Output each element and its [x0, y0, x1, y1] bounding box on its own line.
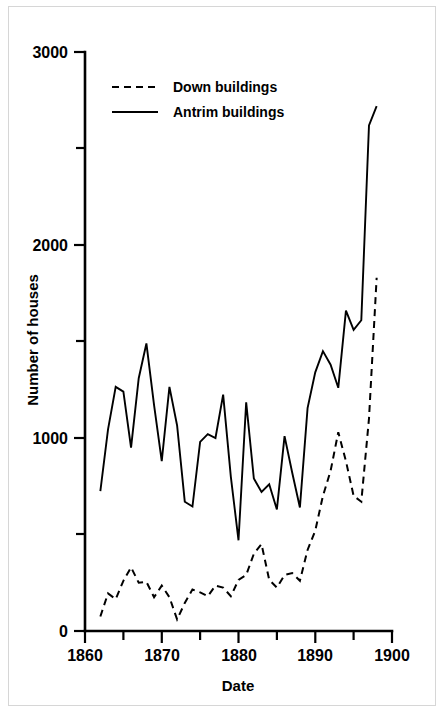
figure-container: 3000 2000 1000 0 1860 1870 1880 1890 190…: [0, 0, 444, 715]
y-tick-label-0: 0: [59, 623, 68, 640]
x-tick-label-1900: 1900: [374, 647, 410, 664]
x-tick-label-1880: 1880: [221, 647, 257, 664]
data-series-group: [100, 106, 376, 619]
y-tick-label-2000: 2000: [32, 237, 68, 254]
x-tick-labels: 1860 1870 1880 1890 1900: [67, 647, 410, 664]
legend: Down buildings Antrim buildings: [112, 79, 284, 120]
y-tick-marks: [74, 52, 85, 631]
axes-group: [85, 52, 392, 631]
x-tick-label-1890: 1890: [297, 647, 333, 664]
series-antrim-buildings: [100, 106, 376, 540]
x-tick-marks: [85, 631, 392, 643]
y-tick-label-3000: 3000: [32, 44, 68, 61]
x-tick-label-1870: 1870: [144, 647, 180, 664]
y-tick-label-1000: 1000: [32, 430, 68, 447]
series-down-buildings: [100, 278, 376, 620]
legend-label-down-buildings: Down buildings: [173, 79, 277, 95]
y-axis-title: Number of houses: [24, 274, 41, 406]
line-chart: 3000 2000 1000 0 1860 1870 1880 1890 190…: [0, 0, 444, 715]
x-axis-title: Date: [222, 677, 255, 694]
legend-label-antrim-buildings: Antrim buildings: [173, 104, 284, 120]
x-tick-label-1860: 1860: [67, 647, 103, 664]
